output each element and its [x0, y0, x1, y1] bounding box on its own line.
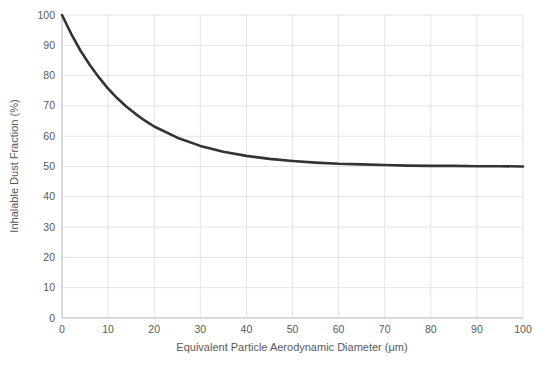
y-tick-label: 80: [43, 69, 55, 81]
y-axis-title: Inhalable Dust Fraction (%): [9, 99, 20, 232]
y-tick-label: 10: [43, 281, 55, 293]
x-tick-label: 100: [514, 323, 532, 335]
y-tick-label: 100: [37, 9, 55, 21]
x-axis-title: Equivalent Particle Aerodynamic Diameter…: [176, 342, 407, 353]
x-tick-label: 90: [471, 323, 483, 335]
y-tick-label: 20: [43, 251, 55, 263]
x-tick-label: 40: [241, 323, 253, 335]
x-tick-label: 80: [425, 323, 437, 335]
y-tick-label: 60: [43, 130, 55, 142]
x-tick-label: 70: [379, 323, 391, 335]
x-tick-label: 50: [287, 323, 299, 335]
x-tick-label: 60: [333, 323, 345, 335]
chart-figure: 0102030405060708090100010203040506070809…: [0, 0, 556, 371]
x-tick-label: 30: [194, 323, 206, 335]
y-tick-label: 90: [43, 39, 55, 51]
y-tick-label: 30: [43, 221, 55, 233]
y-tick-label: 50: [43, 160, 55, 172]
y-tick-label: 70: [43, 99, 55, 111]
x-tick-label: 20: [148, 323, 160, 335]
y-tick-label: 40: [43, 190, 55, 202]
y-tick-label: 0: [49, 312, 55, 324]
plot-area: 0102030405060708090100010203040506070809…: [0, 0, 556, 371]
x-tick-label: 0: [59, 323, 65, 335]
x-tick-label: 10: [102, 323, 114, 335]
